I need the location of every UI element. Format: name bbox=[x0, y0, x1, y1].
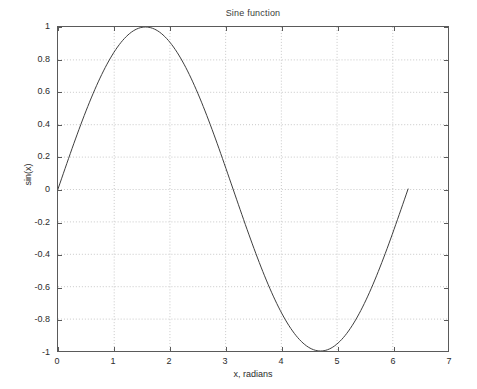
x-tick-mark bbox=[114, 347, 115, 351]
figure-canvas: Sine function 01234567 -1-0.8-0.6-0.4-0.… bbox=[0, 0, 477, 389]
x-tick-mark-top bbox=[170, 27, 171, 31]
x-tick-label: 6 bbox=[373, 356, 413, 366]
y-tick-label: -0.6 bbox=[10, 282, 50, 292]
y-tick-mark bbox=[58, 92, 62, 93]
sine-curve bbox=[58, 27, 448, 351]
y-tick-label: 0.8 bbox=[10, 54, 50, 64]
chart-title: Sine function bbox=[57, 8, 449, 19]
y-tick-label: 0.4 bbox=[10, 119, 50, 129]
y-tick-mark-right bbox=[444, 288, 448, 289]
y-tick-mark bbox=[58, 255, 62, 256]
y-tick-mark bbox=[58, 157, 62, 158]
x-tick-label: 3 bbox=[205, 356, 245, 366]
x-tick-mark bbox=[170, 347, 171, 351]
y-tick-label: -0.4 bbox=[10, 249, 50, 259]
sine-path bbox=[58, 27, 408, 351]
x-tick-label: 5 bbox=[317, 356, 357, 366]
y-tick-label: 0.6 bbox=[10, 86, 50, 96]
y-tick-mark bbox=[58, 190, 62, 191]
y-tick-mark bbox=[58, 320, 62, 321]
y-tick-mark-right bbox=[444, 157, 448, 158]
y-tick-mark-right bbox=[444, 255, 448, 256]
y-tick-mark-right bbox=[444, 223, 448, 224]
y-tick-mark-right bbox=[444, 190, 448, 191]
x-tick-mark-top bbox=[114, 27, 115, 31]
y-tick-mark-right bbox=[444, 27, 448, 28]
y-tick-mark bbox=[58, 125, 62, 126]
x-tick-label: 0 bbox=[37, 356, 77, 366]
x-tick-mark-top bbox=[226, 27, 227, 31]
x-tick-label: 2 bbox=[149, 356, 189, 366]
y-tick-mark-right bbox=[444, 125, 448, 126]
x-tick-mark bbox=[338, 347, 339, 351]
x-tick-mark bbox=[226, 347, 227, 351]
x-tick-mark-top bbox=[394, 27, 395, 31]
x-tick-mark-top bbox=[338, 27, 339, 31]
y-tick-mark bbox=[58, 27, 62, 28]
plot-area bbox=[57, 26, 449, 352]
y-tick-mark-right bbox=[444, 320, 448, 321]
y-tick-label: 1 bbox=[10, 21, 50, 31]
x-tick-mark bbox=[282, 347, 283, 351]
y-tick-mark bbox=[58, 288, 62, 289]
y-tick-label: -0.8 bbox=[10, 314, 50, 324]
x-tick-mark bbox=[58, 347, 59, 351]
y-tick-mark-right bbox=[444, 60, 448, 61]
y-tick-mark bbox=[58, 60, 62, 61]
x-tick-label: 4 bbox=[261, 356, 301, 366]
y-tick-mark bbox=[58, 223, 62, 224]
y-tick-mark-right bbox=[444, 92, 448, 93]
x-tick-mark-top bbox=[282, 27, 283, 31]
x-tick-mark bbox=[394, 347, 395, 351]
x-tick-label: 7 bbox=[429, 356, 469, 366]
x-tick-label: 1 bbox=[93, 356, 133, 366]
x-axis-label: x, radians bbox=[57, 369, 449, 380]
y-tick-label: -0.2 bbox=[10, 217, 50, 227]
y-axis-label: sin(x) bbox=[23, 135, 34, 215]
y-tick-label: -1 bbox=[10, 347, 50, 357]
